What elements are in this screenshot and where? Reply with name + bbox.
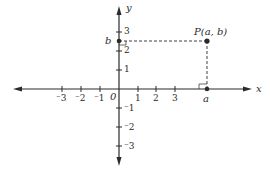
point-a-label: a [203,94,209,104]
x-tick-label: 1 [135,94,141,103]
x-tick-label: 2 [153,94,159,103]
point-b-label: b [105,36,111,46]
x-tick-label: ⁻1 [94,94,104,103]
projection-lines [119,41,207,89]
y-tick-label: ⁻1 [124,104,134,113]
y-tick-label: 2 [124,46,130,55]
x-axis [13,86,252,92]
y-tick-label: ⁻2 [124,123,134,132]
x-axis-label: x [256,84,262,94]
point-p-label: P(a, b) [194,27,227,37]
y-tick-label: ⁻3 [124,142,134,151]
x-tick-label: ⁻3 [56,94,66,103]
coordinate-plane: x y 0 ⁻3 ⁻2 ⁻1 1 2 3 3 2 1 ⁻1 ⁻2 ⁻3 P(a,… [0,0,270,176]
y-axis [116,6,122,166]
points [117,38,210,91]
point-p [204,38,209,43]
x-axis-right-arrow-icon [243,87,252,92]
y-axis-up-arrow-icon [117,6,122,15]
plane-graphic [0,0,270,176]
y-axis-label: y [126,3,132,13]
origin-label: 0 [110,92,116,102]
y-tick-label: 3 [124,27,130,36]
x-axis-left-arrow-icon [13,87,22,92]
point-b [117,39,122,44]
y-axis-down-arrow-icon [117,157,122,166]
y-tick-label: 1 [124,65,130,74]
x-tick-label: 3 [172,94,178,103]
point-a [205,87,210,92]
right-angle-marks [119,41,207,89]
x-tick-label: ⁻2 [75,94,85,103]
